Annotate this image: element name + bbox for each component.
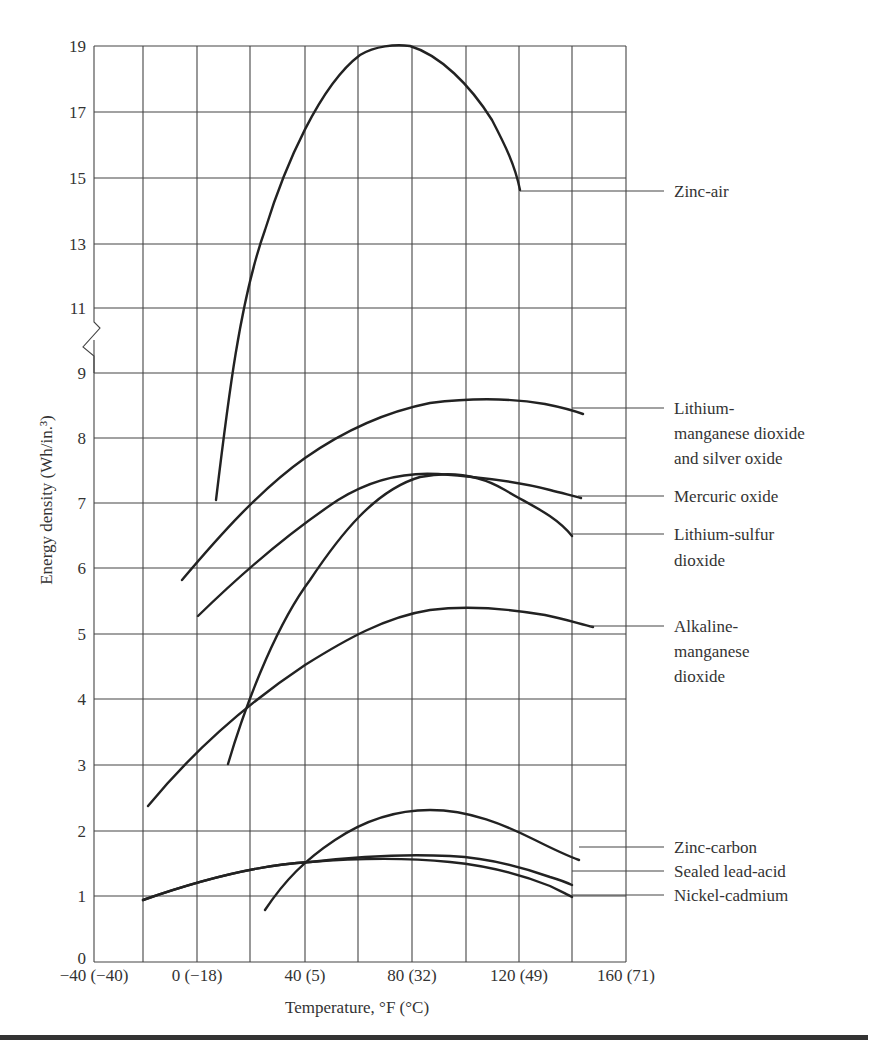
leader-lines [520,191,664,895]
svg-text:17: 17 [69,103,87,122]
x-axis-ticks: −40 (−40) 0 (−18) 40 (5) 80 (32) 120 (49… [60,966,655,985]
svg-text:6: 6 [78,559,87,578]
svg-text:1: 1 [78,887,87,906]
svg-text:5: 5 [78,625,87,644]
series-mercuric-oxide [198,474,581,616]
svg-text:4: 4 [78,690,87,709]
label-li-mno2-line2: manganese dioxide [674,424,805,443]
label-li-mno2-line1: Lithium- [674,399,735,418]
svg-text:160 (71): 160 (71) [597,966,655,985]
svg-text:80 (32): 80 (32) [387,966,437,985]
svg-text:7: 7 [78,494,87,513]
svg-text:15: 15 [69,169,86,188]
series-alkaline-manganese-dioxide [148,608,593,806]
label-li-so2-line1: Lithium-sulfur [674,525,774,544]
bottom-rule [0,1035,868,1040]
y-axis-ticks: 19 17 15 13 11 9 8 7 6 5 4 3 2 1 0 [69,37,87,968]
label-alkaline-line2: manganese [674,642,750,661]
label-zinc-carbon: Zinc-carbon [674,838,758,857]
label-sealed-lead-acid: Sealed lead-acid [674,862,786,881]
label-nickel-cadmium: Nickel-cadmium [674,886,788,905]
svg-text:19: 19 [69,37,86,56]
svg-text:2: 2 [78,822,87,841]
label-li-so2-line2: dioxide [674,551,725,570]
series-lithium-sulfur-dioxide [228,474,572,764]
label-zinc-air: Zinc-air [674,182,729,201]
svg-text:−40 (−40): −40 (−40) [60,966,129,985]
svg-text:120 (49): 120 (49) [490,966,548,985]
svg-text:8: 8 [78,429,87,448]
series-lithium-manganese-dioxide [182,399,583,580]
label-alkaline-line1: Alkaline- [674,617,739,636]
energy-density-chart: 19 17 15 13 11 9 8 7 6 5 4 3 2 1 0 −40 (… [0,0,870,1057]
svg-text:13: 13 [69,235,86,254]
svg-text:3: 3 [78,756,87,775]
svg-text:0 (−18): 0 (−18) [172,966,223,985]
series-zinc-air [216,45,520,500]
svg-text:11: 11 [70,299,86,318]
y-axis-label: Energy density (Wh/in.³) [37,415,56,585]
series-labels: Zinc-air Lithium- manganese dioxide and … [674,182,805,905]
label-alkaline-line3: dioxide [674,667,725,686]
svg-text:9: 9 [78,364,87,383]
label-mercuric-oxide: Mercuric oxide [674,487,778,506]
label-li-mno2-line3: and silver oxide [674,449,783,468]
svg-text:40 (5): 40 (5) [284,966,325,985]
x-axis-label: Temperature, °F (°C) [285,998,429,1017]
